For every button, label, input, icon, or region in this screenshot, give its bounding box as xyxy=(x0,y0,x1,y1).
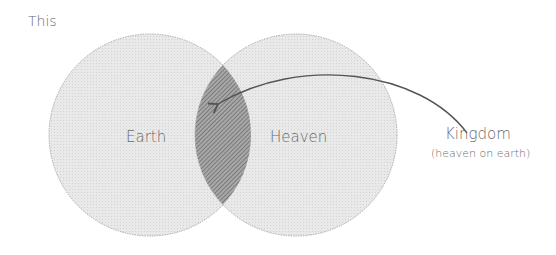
earth-label: Earth xyxy=(126,128,166,146)
kingdom-label: Kingdom xyxy=(445,125,511,143)
kingdom-sublabel: (heaven on earth) xyxy=(431,147,530,160)
heaven-label: Heaven xyxy=(270,128,327,146)
diagram-title: This xyxy=(28,13,57,29)
